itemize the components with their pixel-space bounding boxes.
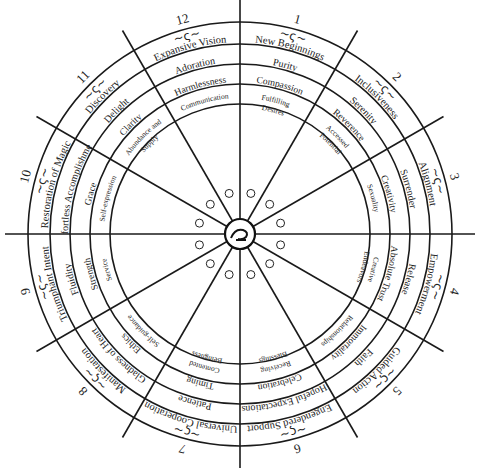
sector-7-ring2-label: Patience xyxy=(176,393,213,413)
sector-3-ring3-label: Creativity xyxy=(379,174,399,214)
spoke-4 xyxy=(253,242,444,352)
marker-circle xyxy=(266,200,274,208)
sector-number: 12 xyxy=(174,10,190,28)
sector-number: 5 xyxy=(390,384,405,399)
marker-circle xyxy=(247,271,255,279)
marker-circle xyxy=(277,241,285,249)
sector-number: 3 xyxy=(447,171,463,181)
marker-circle xyxy=(195,219,203,227)
sector-9-ring4-label: Service xyxy=(99,257,114,282)
marker-circle xyxy=(277,219,285,227)
marker-circle xyxy=(225,189,233,197)
sector-number: 10 xyxy=(16,168,34,184)
marker-circle xyxy=(225,271,233,279)
sector-number: 9 xyxy=(17,287,33,297)
sector-4-ring3-label: Absolute Trust xyxy=(375,245,399,303)
marker-circle xyxy=(195,241,203,249)
sector-number: 8 xyxy=(75,384,90,399)
sector-4-ring2-label: Release xyxy=(399,263,418,297)
marker-circle xyxy=(206,200,214,208)
sector-9-ring3-label: Strength xyxy=(82,257,100,291)
sector-3-ring2-label: Surrender xyxy=(398,168,419,210)
sector-number: 6 xyxy=(292,441,303,457)
marker-circle xyxy=(206,260,214,268)
marker-circle xyxy=(266,260,274,268)
sector-number: 7 xyxy=(177,441,188,457)
marker-circle xyxy=(247,189,255,197)
center-hub xyxy=(225,219,255,249)
spoke-7 xyxy=(123,247,233,438)
spoke-2 xyxy=(253,117,444,227)
sector-9-ring2-label: Fluidity xyxy=(62,263,81,297)
spoke-8 xyxy=(36,242,227,352)
zodiac-wheel-diagram: 1New BeginningsPurityCompassionFulfillin… xyxy=(0,0,481,468)
spoke-11 xyxy=(123,30,233,221)
spoke-1 xyxy=(248,30,358,221)
sector-number: 2 xyxy=(390,69,405,84)
sector-number: 1 xyxy=(293,11,303,27)
sector-number: 4 xyxy=(447,287,463,298)
sector-12-ring2-label: Adoration xyxy=(173,55,216,76)
sector-7-ring3-label: Timing xyxy=(185,375,215,392)
